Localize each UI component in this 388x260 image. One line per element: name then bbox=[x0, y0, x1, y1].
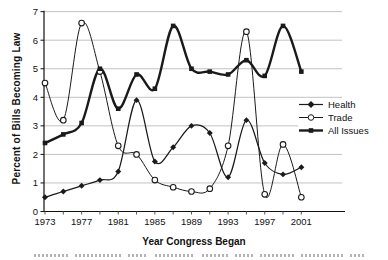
legend-item-trade: Trade bbox=[298, 112, 386, 122]
marker-all-issues bbox=[79, 121, 84, 126]
y-tick-label: 2 bbox=[33, 149, 38, 160]
y-tick-label: 3 bbox=[33, 120, 38, 131]
marker-trade bbox=[134, 152, 140, 158]
marker-health bbox=[298, 164, 304, 170]
marker-all-issues bbox=[43, 141, 48, 146]
marker-trade bbox=[189, 189, 195, 195]
marker-health bbox=[60, 189, 66, 195]
marker-all-issues bbox=[116, 106, 121, 111]
marker-all-issues bbox=[153, 86, 158, 91]
x-tick-label: 1993 bbox=[218, 216, 239, 227]
marker-trade bbox=[61, 117, 67, 123]
marker-all-issues bbox=[189, 66, 194, 71]
y-tick-label: 5 bbox=[33, 63, 38, 74]
x-tick-label: 1989 bbox=[181, 216, 202, 227]
marker-trade bbox=[244, 29, 250, 35]
x-tick-label: 1977 bbox=[71, 216, 92, 227]
marker-all-issues bbox=[61, 132, 66, 137]
y-axis-title: Percent of Bills Becoming Law bbox=[11, 24, 22, 194]
chart-figure: 0123456719731977198119851989199319972001… bbox=[0, 0, 388, 260]
marker-health bbox=[115, 169, 121, 175]
marker-all-issues bbox=[299, 69, 304, 74]
marker-trade bbox=[42, 80, 48, 86]
marker-all-issues bbox=[171, 24, 176, 29]
marker-all-issues bbox=[244, 58, 249, 63]
marker-trade bbox=[280, 142, 286, 148]
legend-label-health: Health bbox=[328, 99, 355, 110]
legend-label-all-issues: All Issues bbox=[328, 125, 369, 136]
marker-health bbox=[280, 171, 286, 177]
all-issues-line-marker-icon bbox=[298, 126, 324, 135]
marker-all-issues bbox=[262, 74, 267, 79]
y-tick-label: 6 bbox=[33, 35, 38, 46]
marker-trade bbox=[79, 20, 85, 26]
marker-health bbox=[42, 194, 48, 200]
x-axis-title: Year Congress Began bbox=[44, 236, 344, 247]
marker-health bbox=[79, 183, 85, 189]
x-tick-label: 1985 bbox=[144, 216, 165, 227]
marker-trade bbox=[115, 143, 121, 149]
legend-item-all-issues: All Issues bbox=[298, 125, 386, 135]
y-tick-label: 1 bbox=[33, 177, 38, 188]
marker-all-issues bbox=[207, 69, 212, 74]
x-tick-label: 2001 bbox=[291, 216, 312, 227]
x-tick-label: 1981 bbox=[108, 216, 129, 227]
health-line-marker-icon bbox=[298, 100, 324, 109]
x-tick-label: 1973 bbox=[34, 216, 55, 227]
marker-trade bbox=[225, 143, 231, 149]
marker-all-issues bbox=[226, 72, 231, 77]
legend-label-trade: Trade bbox=[328, 112, 352, 123]
marker-all-issues bbox=[134, 72, 139, 77]
y-tick-label: 4 bbox=[33, 92, 38, 103]
marker-trade bbox=[170, 184, 176, 190]
series-line-trade bbox=[45, 22, 301, 198]
legend-item-health: Health bbox=[298, 99, 386, 109]
marker-health bbox=[97, 177, 103, 183]
x-tick-label: 1997 bbox=[254, 216, 275, 227]
trade-line-marker-icon bbox=[298, 113, 324, 122]
marker-all-issues bbox=[98, 66, 103, 71]
legend: Health Trade All Issues bbox=[298, 99, 386, 135]
marker-trade bbox=[299, 194, 305, 200]
cropped-caption-text-top-edge bbox=[34, 254, 380, 258]
marker-all-issues bbox=[281, 24, 286, 29]
y-tick-label: 7 bbox=[33, 6, 38, 17]
marker-trade bbox=[207, 186, 213, 192]
marker-trade bbox=[262, 192, 268, 198]
marker-trade bbox=[152, 177, 158, 183]
